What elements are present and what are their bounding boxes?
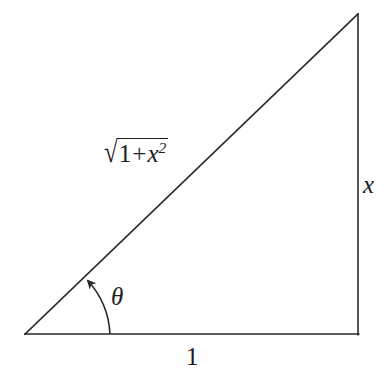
angle-label-theta: θ xyxy=(111,284,123,309)
hypotenuse-label: √1+x2 xyxy=(104,138,168,167)
radicand-variable: x xyxy=(147,140,158,167)
radical-expression: √1+x2 xyxy=(104,138,168,167)
radical-sign-icon: √ xyxy=(104,138,118,168)
angle-arc xyxy=(88,281,110,335)
base-side-label: 1 xyxy=(186,344,199,369)
vertical-side-label: x xyxy=(363,172,374,197)
triangle-figure: √1+x2 x 1 θ xyxy=(0,0,384,377)
radicand-exponent: 2 xyxy=(159,139,167,156)
radicand-first-term: 1 xyxy=(119,140,132,167)
triangle-side-hypotenuse xyxy=(25,14,358,334)
radicand: 1+x2 xyxy=(117,138,168,166)
radicand-operator: + xyxy=(131,140,147,167)
triangle-diagram-svg xyxy=(0,0,384,377)
